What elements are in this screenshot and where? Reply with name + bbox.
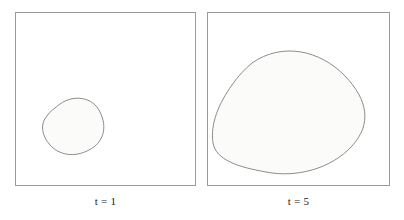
- shape-canvas-t1: [15, 12, 196, 186]
- panel-t5: [207, 12, 390, 186]
- panel-t1: [15, 12, 196, 186]
- figure-root: t = 1 t = 5: [0, 0, 404, 220]
- blob-shape-t5: [212, 51, 364, 174]
- panel-label-t1: t = 1: [15, 195, 196, 208]
- blob-shape-t1: [43, 98, 104, 154]
- shape-canvas-t5: [207, 12, 390, 186]
- panel-label-t5: t = 5: [207, 195, 390, 208]
